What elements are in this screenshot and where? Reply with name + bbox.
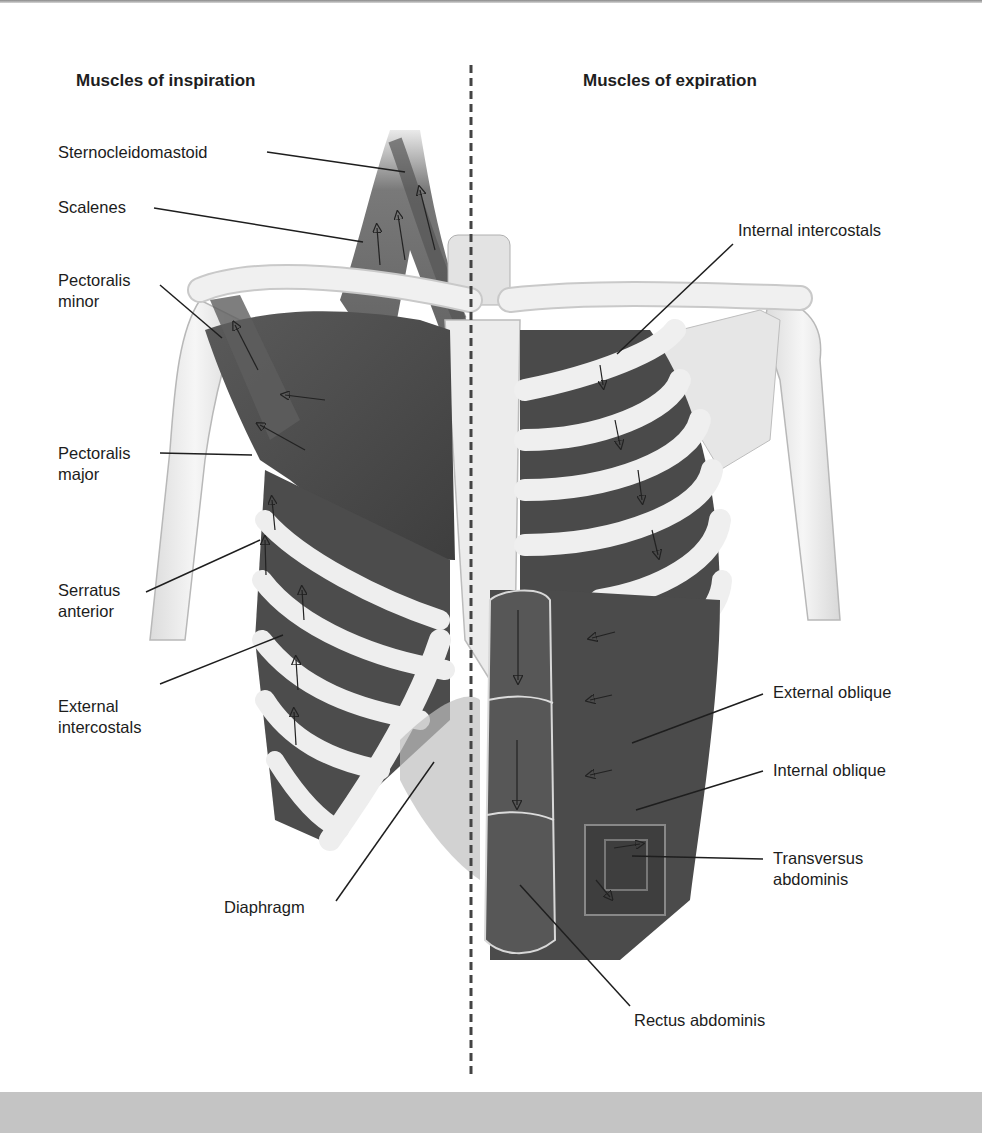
label-rectus-abdominis: Rectus abdominis bbox=[634, 1010, 765, 1031]
label-diaphragm: Diaphragm bbox=[224, 897, 305, 918]
respiratory-muscles-figure: Muscles of inspiration Muscles of expira… bbox=[0, 0, 982, 1092]
label-sternocleidomastoid: Sternocleidomastoid bbox=[58, 142, 208, 163]
anatomy-illustration bbox=[0, 0, 982, 1092]
label-pectoralis-minor: Pectoralis minor bbox=[58, 270, 130, 312]
label-transversus-abdominis: Transversus abdominis bbox=[773, 848, 863, 890]
heading-inspiration: Muscles of inspiration bbox=[76, 71, 255, 91]
label-external-oblique: External oblique bbox=[773, 682, 891, 703]
label-scalenes: Scalenes bbox=[58, 197, 126, 218]
label-internal-intercostals: Internal intercostals bbox=[738, 220, 881, 241]
label-external-intercostals: External intercostals bbox=[58, 696, 141, 738]
rectus-abdominis-muscle bbox=[485, 591, 555, 954]
label-serratus-anterior: Serratus anterior bbox=[58, 580, 120, 622]
bottom-band bbox=[0, 1092, 982, 1133]
transversus-abdominis-muscle bbox=[585, 825, 665, 915]
label-internal-oblique: Internal oblique bbox=[773, 760, 886, 781]
heading-expiration: Muscles of expiration bbox=[583, 71, 757, 91]
label-pectoralis-major: Pectoralis major bbox=[58, 443, 130, 485]
